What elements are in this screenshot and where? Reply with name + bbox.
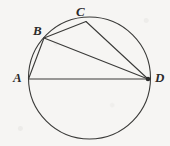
circle-diagram-canvas [0,0,170,146]
chord-a-b [29,38,45,79]
vertex-label-d: D [155,71,164,84]
vertex-dot-d [146,77,151,82]
chord-c-d [86,22,148,80]
geometry-figure: A B C D [0,0,170,146]
vertex-label-a: A [13,71,22,84]
circle-outline [29,17,151,139]
chord-b-d [44,38,148,79]
vertex-label-c: C [76,5,85,18]
chord-b-c [44,22,86,39]
vertex-label-b: B [33,24,42,37]
